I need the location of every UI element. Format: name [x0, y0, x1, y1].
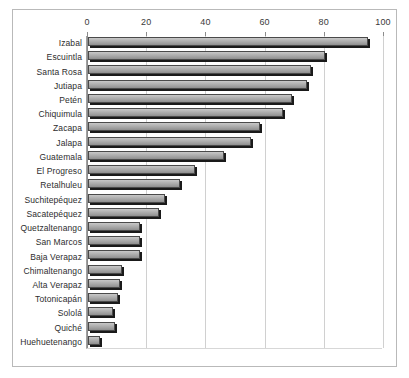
x-tick-label-0: 0	[84, 17, 89, 27]
bar-shadow-bottom	[90, 274, 124, 276]
bar-row: Petén	[87, 93, 382, 107]
bar	[88, 94, 292, 103]
bar-row: Alta Verapaz	[87, 278, 382, 292]
bar-shadow-bottom	[90, 259, 142, 261]
category-label: Alta Verapaz	[33, 280, 82, 290]
bar-fill	[88, 222, 140, 231]
bar	[88, 208, 159, 217]
bar-fill	[88, 179, 180, 188]
bar-shadow-bottom	[90, 89, 309, 91]
bar-fill	[88, 94, 292, 103]
bar-row: Quetzaltenango	[87, 221, 382, 235]
bar	[88, 236, 140, 245]
category-label: Guatemala	[40, 152, 82, 162]
bar	[88, 65, 311, 74]
bar-row: El Progreso	[87, 164, 382, 178]
bar	[88, 122, 260, 131]
bar-shadow-bottom	[90, 103, 294, 105]
chart-frame: 020406080100 IzabalEscuintlaSanta RosaJu…	[12, 9, 397, 367]
category-label: Jutiapa	[54, 81, 82, 91]
bar-row: San Marcos	[87, 235, 382, 249]
bar-fill	[88, 165, 195, 174]
bar-row: Escuintla	[87, 50, 382, 64]
bar-shadow-bottom	[90, 345, 102, 347]
bar-shadow-bottom	[90, 231, 142, 233]
bar-shadow-bottom	[90, 117, 285, 119]
bar	[88, 80, 307, 89]
category-label: Suchitepéquez	[24, 195, 82, 205]
bar-shadow-bottom	[90, 60, 327, 62]
category-label: Chimaltenango	[24, 266, 82, 276]
bar-shadow-bottom	[90, 160, 226, 162]
bar-fill	[88, 108, 283, 117]
bar-fill	[88, 236, 140, 245]
bar-fill	[88, 322, 115, 331]
category-label: Jalapa	[56, 138, 82, 148]
bar	[88, 51, 325, 60]
bar-fill	[88, 151, 224, 160]
tick-mark-100	[383, 32, 384, 36]
bar-row: Jalapa	[87, 136, 382, 150]
x-tick-label-40: 40	[200, 17, 210, 27]
bar-shadow-bottom	[90, 245, 142, 247]
bar-fill	[88, 80, 307, 89]
bar	[88, 108, 283, 117]
category-label: Chiquimula	[38, 109, 82, 119]
x-tick-label-80: 80	[319, 17, 329, 27]
bar-shadow-bottom	[90, 302, 120, 304]
bar-row: Retalhuleu	[87, 178, 382, 192]
bar-row: Sacatepéquez	[87, 207, 382, 221]
category-label: Baja Verapaz	[30, 252, 82, 262]
bar-fill	[88, 137, 251, 146]
category-label: Izabal	[59, 38, 82, 48]
bar-fill	[88, 265, 122, 274]
bar-fill	[88, 336, 100, 345]
bar-shadow-bottom	[90, 331, 117, 333]
bar	[88, 194, 165, 203]
category-label: Sololá	[58, 308, 82, 318]
bar	[88, 250, 140, 259]
bar	[88, 37, 368, 46]
bar-shadow-bottom	[90, 316, 115, 318]
bar-shadow-bottom	[90, 203, 167, 205]
bar-fill	[88, 65, 311, 74]
bar-row: Huehuetenango	[87, 335, 382, 349]
category-label: Petén	[59, 95, 82, 105]
category-label: Totonicapán	[35, 294, 82, 304]
bar-shadow-bottom	[90, 217, 161, 219]
bar-row: Sololá	[87, 306, 382, 320]
bar-chart-figure: 020406080100 IzabalEscuintlaSanta RosaJu…	[0, 0, 409, 378]
bar-row: Chimaltenango	[87, 264, 382, 278]
bar	[88, 279, 120, 288]
category-label: Escuintla	[47, 52, 82, 62]
bar-row: Izabal	[87, 36, 382, 50]
bar-fill	[88, 250, 140, 259]
bar-fill	[88, 37, 368, 46]
bar-row: Jutiapa	[87, 79, 382, 93]
bar	[88, 137, 251, 146]
bar-shadow-bottom	[90, 46, 370, 48]
category-label: San Marcos	[36, 237, 82, 247]
bar-shadow-bottom	[90, 174, 197, 176]
bar	[88, 151, 224, 160]
x-tick-label-20: 20	[141, 17, 151, 27]
gridline-100	[383, 36, 384, 348]
bar	[88, 222, 140, 231]
bar-row: Guatemala	[87, 150, 382, 164]
bar	[88, 322, 115, 331]
bar	[88, 165, 195, 174]
bar-shadow-bottom	[90, 74, 313, 76]
category-label: Sacatepéquez	[26, 209, 82, 219]
bar	[88, 265, 122, 274]
category-label: Santa Rosa	[37, 67, 82, 77]
x-tick-label-60: 60	[259, 17, 269, 27]
bar-fill	[88, 293, 118, 302]
bar	[88, 307, 113, 316]
bar-row: Santa Rosa	[87, 64, 382, 78]
bar	[88, 336, 100, 345]
bar-fill	[88, 279, 120, 288]
category-label: Retalhuleu	[40, 180, 82, 190]
bar-row: Chiquimula	[87, 107, 382, 121]
bar-shadow-bottom	[90, 146, 253, 148]
bar-shadow-bottom	[90, 131, 262, 133]
